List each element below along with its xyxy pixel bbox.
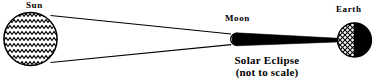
solar-eclipse-diagram: Sun Moon Earth Solar Eclipse (not to sca…	[0, 0, 378, 81]
umbra-cone	[236, 33, 352, 46]
diagram-caption: Solar Eclipse (not to scale)	[204, 54, 330, 78]
label-earth: Earth	[336, 5, 362, 14]
earth-body	[338, 23, 372, 57]
tangent-ray-upper	[51, 16, 232, 35]
moon-body	[230, 33, 242, 45]
caption-title: Solar Eclipse	[204, 54, 330, 66]
label-sun: Sun	[26, 1, 43, 10]
umbra-shape	[236, 33, 352, 46]
sun-body	[4, 12, 57, 65]
caption-subtitle: (not to scale)	[204, 66, 330, 78]
label-moon: Moon	[225, 14, 250, 23]
